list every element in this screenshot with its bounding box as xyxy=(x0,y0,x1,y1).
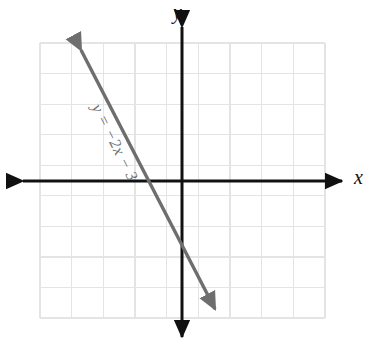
y-axis-label: y xyxy=(173,2,182,22)
graph-canvas xyxy=(0,0,378,349)
x-axis-label: x xyxy=(354,167,363,187)
coordinate-plane-figure: y x y = −2x − 3 xyxy=(0,0,378,349)
